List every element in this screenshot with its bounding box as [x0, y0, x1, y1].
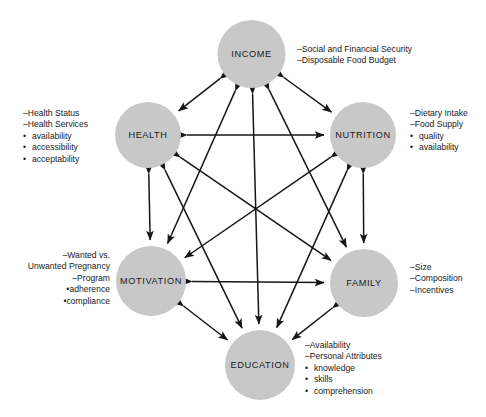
- annotation-item-motivation-2: –Program: [14, 273, 110, 284]
- motivation-education-arrow: [183, 306, 227, 340]
- annotation-item-health-2: availability: [23, 131, 88, 142]
- annotation-item-education-3: skills: [305, 374, 382, 385]
- node-education[interactable]: EDUCATION: [225, 330, 295, 400]
- family-education-arrow: [292, 308, 332, 340]
- node-label-income: INCOME: [231, 49, 271, 59]
- income-nutrition-arrow: [284, 78, 332, 113]
- annotation-item-nutrition-1: –Food Supply: [410, 119, 468, 130]
- node-family[interactable]: FAMILY: [330, 249, 398, 317]
- annotation-item-family-0: –Size: [410, 262, 463, 273]
- annotation-item-education-4: comprehension: [305, 386, 382, 397]
- income-motivation-arrow: [168, 91, 236, 244]
- annotation-item-health-0: –Health Status: [23, 108, 88, 119]
- annotation-item-family-2: –Incentives: [410, 285, 463, 296]
- node-health[interactable]: HEALTH: [115, 102, 181, 168]
- annotation-item-health-4: acceptability: [23, 154, 88, 165]
- node-income[interactable]: INCOME: [218, 20, 286, 88]
- annotation-health: –Health Status–Health Servicesavailabili…: [23, 108, 88, 165]
- node-label-nutrition: NUTRITION: [335, 130, 390, 140]
- annotation-item-income-1: –Disposable Food Budget: [297, 55, 412, 66]
- annotation-item-motivation-1: Unwanted Pregnancy: [14, 261, 110, 272]
- annotation-item-health-3: accessibility: [23, 142, 88, 153]
- diagram-canvas: INCOMEHEALTHNUTRITIONMOTIVATIONFAMILYEDU…: [0, 0, 486, 417]
- annotation-item-motivation-3: adherence: [14, 284, 110, 295]
- income-health-arrow: [179, 79, 220, 111]
- annotation-item-education-2: knowledge: [305, 363, 382, 374]
- annotation-item-motivation-4: compliance: [14, 296, 110, 307]
- annotation-item-motivation-0: –Wanted vs.: [14, 250, 110, 261]
- annotation-family: –Size–Composition–Incentives: [410, 262, 463, 296]
- node-motivation[interactable]: MOTIVATION: [116, 246, 186, 316]
- node-nutrition[interactable]: NUTRITION: [330, 102, 396, 168]
- nutrition-motivation-arrow: [185, 157, 331, 258]
- health-motivation-arrow: [149, 174, 150, 240]
- annotation-item-education-0: –Availability: [305, 340, 382, 351]
- node-label-health: HEALTH: [128, 130, 167, 140]
- node-label-family: FAMILY: [346, 278, 382, 288]
- annotation-item-income-0: –Social and Financial Security: [297, 44, 412, 55]
- income-family-arrow: [269, 90, 346, 247]
- annotation-item-family-1: –Composition: [410, 273, 463, 284]
- hexagon-network-diagram: INCOMEHEALTHNUTRITIONMOTIVATIONFAMILYEDU…: [0, 0, 486, 417]
- motivation-family-arrow: [192, 281, 324, 282]
- node-label-education: EDUCATION: [231, 360, 290, 370]
- annotation-nutrition: –Dietary Intake–Food Supplyqualityavaila…: [410, 108, 468, 154]
- node-label-motivation: MOTIVATION: [120, 276, 182, 286]
- annotation-education: –Availability–Personal Attributesknowled…: [305, 340, 382, 397]
- annotation-item-health-1: –Health Services: [23, 119, 88, 130]
- annotation-motivation: –Wanted vs.Unwanted Pregnancy–Programadh…: [14, 250, 110, 307]
- nutrition-education-arrow: [277, 171, 347, 328]
- annotation-item-nutrition-2: quality: [410, 131, 468, 142]
- annotation-item-nutrition-0: –Dietary Intake: [410, 108, 468, 119]
- annotation-income: –Social and Financial Security–Disposabl…: [297, 44, 412, 67]
- annotation-item-education-1: –Personal Attributes: [305, 351, 382, 362]
- annotation-item-nutrition-3: availability: [410, 142, 468, 153]
- edge-group: [149, 78, 364, 340]
